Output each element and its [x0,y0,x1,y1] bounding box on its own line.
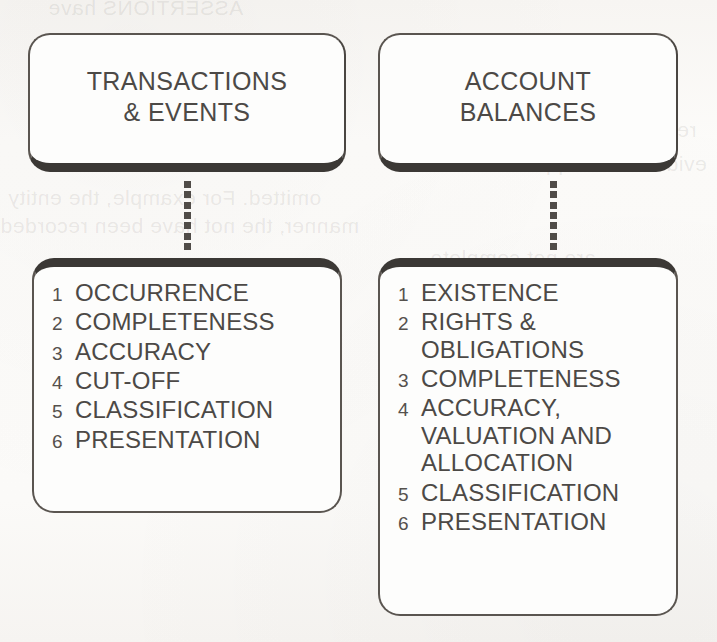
assertion-label: CLASSIFICATION [421,479,619,506]
assertion-label: ACCURACY [75,338,211,365]
assertion-label: OCCURRENCE [75,279,249,306]
assertion-label: COMPLETENESS [75,308,275,335]
assertion-number: 5 [52,401,66,423]
assertion-label: PRESENTATION [75,426,261,453]
list-node-account-balances: 1 EXISTENCE 2 RIGHTS & OBLIGATIONS 3 COM… [378,258,678,616]
list-item: 3 COMPLETENESS [398,365,664,392]
list-item: 2 RIGHTS & OBLIGATIONS [398,308,664,363]
assertion-number: 1 [52,284,66,306]
header-node-account-balances: ACCOUNT BALANCES [378,33,678,172]
connector-dot [550,243,557,250]
assertion-label: ACCURACY, VALUATION AND ALLOCATION [421,394,612,476]
assertion-label: RIGHTS & OBLIGATIONS [421,308,584,363]
assertion-list-account-balances: 1 EXISTENCE 2 RIGHTS & OBLIGATIONS 3 COM… [398,279,664,537]
header-node-account-balances-label: ACCOUNT BALANCES [380,66,676,127]
connector-dot [550,181,557,188]
assertion-label: CUT-OFF [75,367,180,394]
assertion-number: 2 [52,313,66,335]
connector-dot [184,243,191,250]
list-item: 3 ACCURACY [52,338,328,365]
header-node-transactions-and-events: TRANSACTIONS & EVENTS [28,33,346,172]
assertion-number: 1 [398,284,412,306]
connector-dot [550,212,557,219]
audit-assertions-diagram: TRANSACTIONS & EVENTS 1 OCCURRENCE 2 COM… [0,0,717,642]
assertion-number: 5 [398,484,412,506]
connector-dot [184,212,191,219]
connector-transactions-and-events [184,181,191,250]
list-item: 1 OCCURRENCE [52,279,328,306]
list-item: 5 CLASSIFICATION [52,396,328,423]
assertion-number: 4 [398,399,412,421]
assertion-number: 4 [52,372,66,394]
connector-dot [550,222,557,229]
assertion-number: 2 [398,313,412,335]
assertion-number: 6 [52,431,66,453]
assertion-number: 3 [52,343,66,365]
connector-dot [184,202,191,209]
assertion-label: CLASSIFICATION [75,396,273,423]
list-item: 5 CLASSIFICATION [398,479,664,506]
assertion-label: PRESENTATION [421,508,607,535]
assertion-list-transactions-and-events: 1 OCCURRENCE 2 COMPLETENESS 3 ACCURACY 4… [52,279,328,455]
list-item: 6 PRESENTATION [52,426,328,453]
list-item: 4 ACCURACY, VALUATION AND ALLOCATION [398,394,664,476]
list-item: 4 CUT-OFF [52,367,328,394]
connector-dot [550,233,557,240]
list-item: 1 EXISTENCE [398,279,664,306]
connector-account-balances [550,181,557,250]
list-item: 6 PRESENTATION [398,508,664,535]
connector-dot [184,191,191,198]
connector-dot [550,191,557,198]
connector-dot [184,222,191,229]
connector-dot [184,233,191,240]
list-node-transactions-and-events: 1 OCCURRENCE 2 COMPLETENESS 3 ACCURACY 4… [32,258,342,513]
list-item: 2 COMPLETENESS [52,308,328,335]
connector-dot [550,202,557,209]
assertion-number: 3 [398,370,412,392]
assertion-label: EXISTENCE [421,279,559,306]
header-node-transactions-and-events-label: TRANSACTIONS & EVENTS [30,66,344,127]
assertion-label: COMPLETENESS [421,365,621,392]
connector-dot [184,181,191,188]
assertion-number: 6 [398,513,412,535]
